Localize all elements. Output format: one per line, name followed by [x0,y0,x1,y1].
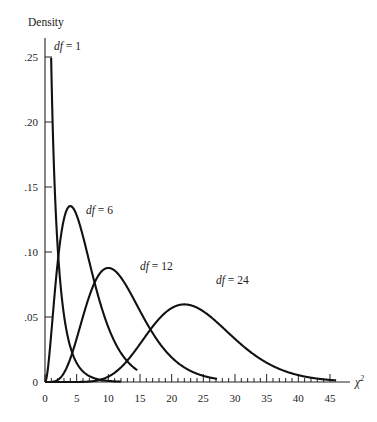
x-tick-label: 25 [198,392,210,404]
x-tick-label: 20 [166,392,178,404]
x-tick-label: 30 [229,392,241,404]
x-tick-label: 45 [324,392,336,404]
x-tick-label: 40 [293,392,305,404]
y-tick-label: .15 [24,181,38,193]
x-tick-label: 10 [103,392,115,404]
curve-df-6 [45,206,137,382]
label-df-24: df = 24 [216,274,249,287]
label-df-12: df = 12 [140,260,173,273]
x-ticks: 051015202530354045 [42,374,336,404]
label-df-6: df = 6 [86,204,113,217]
label-df-1: df = 1 [54,40,81,53]
x-axis-title: χ2 [354,374,364,389]
y-axis-title: Density [28,16,64,29]
y-tick-label: 0 [33,376,39,388]
x-tick-label: 15 [134,392,146,404]
x-tick-label: 5 [74,392,80,404]
density-curves [45,58,336,382]
y-tick-label: .25 [24,51,38,63]
chi-square-density-chart: Density 0.05.10.15.20.25 051015202530354… [0,0,377,422]
x-tick-label: 0 [42,392,48,404]
y-ticks: 0.05.10.15.20.25 [24,51,52,388]
y-tick-label: .10 [24,246,38,258]
y-tick-label: .05 [24,311,38,323]
x-tick-label: 35 [261,392,273,404]
curve-labels: df = 1df = 6df = 12df = 24 [54,40,249,287]
y-tick-label: .20 [24,116,38,128]
